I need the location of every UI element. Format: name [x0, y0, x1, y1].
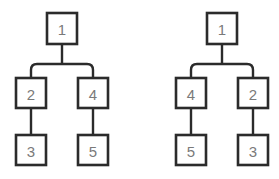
node-left-leaf-b[interactable]: 5: [78, 135, 108, 165]
node-left-child-b[interactable]: 4: [78, 78, 108, 108]
node-right-child-b[interactable]: 2: [238, 78, 268, 108]
node-label-right-child-b: 2: [249, 86, 257, 103]
diagram-canvas: 1 2 4 3 5: [0, 0, 279, 179]
node-right-root[interactable]: 1: [207, 13, 237, 44]
node-label-right-leaf-a: 5: [187, 143, 195, 160]
right-tree-group: 1 4 2 5 3: [176, 13, 268, 165]
node-right-leaf-a[interactable]: 5: [176, 135, 206, 165]
node-left-child-a[interactable]: 2: [16, 78, 46, 108]
node-label-left-child-a: 2: [27, 86, 35, 103]
node-label-left-child-b: 4: [89, 86, 97, 103]
node-label-left-leaf-a: 3: [27, 143, 35, 160]
node-left-root[interactable]: 1: [47, 13, 77, 44]
edge-right-root-to-children: [191, 64, 253, 78]
node-right-leaf-b[interactable]: 3: [238, 135, 268, 165]
node-label-left-leaf-b: 5: [89, 143, 97, 160]
node-label-right-child-a: 4: [187, 86, 195, 103]
node-label-left-root: 1: [58, 21, 66, 38]
left-tree-group: 1 2 4 3 5: [16, 13, 108, 165]
node-left-leaf-a[interactable]: 3: [16, 135, 46, 165]
node-label-right-leaf-b: 3: [249, 143, 257, 160]
node-right-child-a[interactable]: 4: [176, 78, 206, 108]
edge-left-root-to-children: [31, 64, 93, 78]
node-label-right-root: 1: [218, 21, 226, 38]
tree-pair-diagram: 1 2 4 3 5: [0, 0, 279, 179]
